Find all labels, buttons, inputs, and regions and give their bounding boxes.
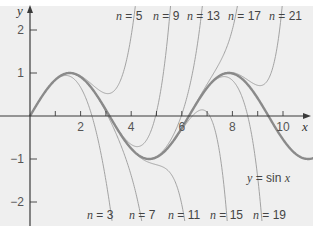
sine-label: y = sin x <box>246 171 291 185</box>
y-tick-label: −2 <box>10 195 24 209</box>
y-axis-label: y <box>15 3 23 18</box>
x-tick-label: 4 <box>128 120 135 134</box>
y-tick-label: −1 <box>10 152 24 166</box>
series-label-n5: n = 5 <box>116 9 143 23</box>
series-label-n15: n = 15 <box>210 208 243 222</box>
x-axis-label: x <box>301 119 308 134</box>
y-tick-label: 1 <box>17 66 24 80</box>
x-tick-label: 10 <box>276 120 290 134</box>
series-label-n19: n = 19 <box>253 208 286 222</box>
series-label-n17: n = 17 <box>228 9 261 23</box>
series-label-n11: n = 11 <box>168 208 200 222</box>
chart: y x 246810−2−112 y = sin xn = 3n = 5n = … <box>0 0 313 226</box>
x-tick-label: 2 <box>77 120 84 134</box>
series-label-n3: n = 3 <box>87 208 114 222</box>
x-tick-label: 6 <box>178 120 185 134</box>
series-label-n9: n = 9 <box>153 9 180 23</box>
x-tick-label: 8 <box>229 120 236 134</box>
series-label-n21: n = 21 <box>269 9 302 23</box>
series-label-n7: n = 7 <box>129 208 156 222</box>
series-label-n13: n = 13 <box>187 9 220 23</box>
y-tick-label: 2 <box>17 23 24 37</box>
